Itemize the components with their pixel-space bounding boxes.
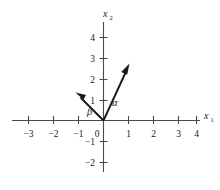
x-tick-label-4: 4 bbox=[194, 129, 199, 139]
vector-alpha-label: α bbox=[112, 97, 118, 108]
axes-group bbox=[12, 22, 200, 172]
y-axis-label: x 2 bbox=[102, 8, 113, 21]
x-axis-label-base: x bbox=[203, 110, 209, 121]
vector-alpha-shaft bbox=[104, 71, 127, 121]
x-axis-label: x 1 bbox=[203, 110, 214, 123]
x-tick-label--1: −1 bbox=[73, 129, 83, 139]
origin-label: 0 bbox=[95, 129, 100, 139]
vector-plot-figure: −3 −2 −1 1 2 3 4 4 3 2 1 −1 −2 0 x 1 x 2 bbox=[0, 0, 220, 190]
x-tick-label--2: −2 bbox=[48, 129, 58, 139]
y-tick-label-2: 2 bbox=[90, 75, 95, 85]
x-tick-label-1: 1 bbox=[126, 129, 131, 139]
x-tick-label-2: 2 bbox=[151, 129, 156, 139]
x-tick-label-3: 3 bbox=[176, 129, 181, 139]
y-axis-label-subscript: 2 bbox=[110, 14, 113, 21]
vector-alpha-arrowhead bbox=[121, 64, 129, 75]
y-tick-label--2: −2 bbox=[85, 158, 95, 168]
y-axis-tick-labels: 4 3 2 1 −1 −2 bbox=[85, 33, 95, 168]
x-axis-label-subscript: 1 bbox=[211, 116, 214, 123]
y-tick-label-1: 1 bbox=[90, 96, 95, 106]
y-axis-label-base: x bbox=[102, 8, 108, 19]
coordinate-plane-svg: −3 −2 −1 1 2 3 4 4 3 2 1 −1 −2 0 x 1 x 2 bbox=[0, 0, 220, 190]
x-tick-label--3: −3 bbox=[23, 129, 33, 139]
vector-beta-label: β bbox=[86, 106, 93, 117]
vector-alpha: α bbox=[104, 64, 130, 121]
y-tick-label-4: 4 bbox=[90, 33, 95, 43]
y-tick-label-3: 3 bbox=[90, 54, 95, 64]
x-axis-tick-labels: −3 −2 −1 1 2 3 4 bbox=[23, 129, 199, 139]
